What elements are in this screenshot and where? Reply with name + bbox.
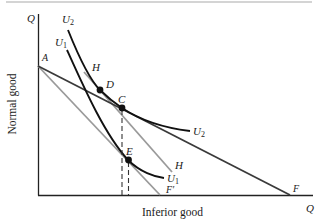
point-d-label: D bbox=[106, 79, 114, 90]
point-f-label: F bbox=[293, 184, 299, 194]
point-e-label: E bbox=[126, 146, 133, 157]
u2-top-label: U2 bbox=[62, 14, 74, 27]
u2-right-letter: U bbox=[193, 125, 201, 137]
u2-top-letter: U bbox=[62, 13, 70, 25]
y-axis-title: Normal good bbox=[6, 69, 18, 139]
u1-top-subscript: 1 bbox=[63, 41, 67, 50]
u2-top-subscript: 2 bbox=[70, 18, 74, 27]
diagram-canvas bbox=[0, 0, 318, 221]
point-c-label: C bbox=[118, 94, 125, 105]
point-a-label: A bbox=[42, 53, 48, 63]
point-c bbox=[119, 105, 126, 112]
indifference-curve-u1 bbox=[67, 50, 164, 178]
indifference-curve-diagram: Q Q U2 U1 A H D C E U2 H U1 F′ F Inferio… bbox=[0, 0, 318, 221]
u2-right-subscript: 2 bbox=[201, 130, 205, 139]
point-f-prime-label: F′ bbox=[166, 185, 174, 195]
budget-line-af bbox=[38, 66, 290, 195]
point-d bbox=[97, 87, 104, 94]
x-axis-title: Inferior good bbox=[142, 206, 203, 218]
h-top-label: H bbox=[92, 62, 100, 73]
u1-right-subscript: 1 bbox=[175, 177, 179, 186]
u1-top-label: U1 bbox=[55, 37, 67, 50]
u1-top-letter: U bbox=[55, 36, 63, 48]
point-e bbox=[125, 157, 132, 164]
h-bottom-label: H bbox=[175, 160, 183, 171]
budget-line-af-prime bbox=[38, 66, 160, 195]
u2-right-label: U2 bbox=[193, 126, 205, 139]
u1-right-letter: U bbox=[167, 172, 175, 184]
y-axis-end-label: Q bbox=[27, 13, 35, 24]
x-axis-end-label: Q bbox=[306, 203, 314, 214]
